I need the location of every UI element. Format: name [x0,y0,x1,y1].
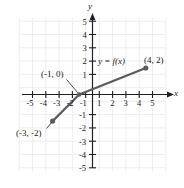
x-axis-label: x [174,89,178,98]
endpoint-marker-right [143,65,148,70]
y-tick-5: 5 [83,18,87,27]
x-tick--3: -3 [53,99,60,108]
point-label-right-endpoint: (4, 2) [144,56,164,65]
y-tick-3: 3 [83,44,87,53]
y-axis-label: y [88,2,92,11]
y-tick--4: -4 [79,151,86,160]
x-tick-4: 4 [137,99,141,108]
x-tick-3: 3 [124,99,128,108]
x-tick-2: 2 [110,99,114,108]
graph-figure: y x -5 -4 -3 -2 -1 1 2 3 4 5 5 4 3 2 1 -… [0,0,184,188]
x-tick--2: -2 [66,99,73,108]
x-tick--4: -4 [40,99,47,108]
x-tick--1: -1 [80,99,87,108]
y-tick--1: -1 [79,111,86,120]
y-tick--2: -2 [79,124,86,133]
y-tick-4: 4 [83,31,87,40]
coordinate-plane [0,0,184,188]
point-label-vertex: (-1, 0) [41,70,64,79]
x-tick-5: 5 [150,99,154,108]
x-tick-1: 1 [97,99,101,108]
x-axis [22,91,174,98]
y-tick-2: 2 [83,57,87,66]
x-tick--5: -5 [27,99,34,108]
y-tick--5: -5 [79,164,86,173]
y-tick-1: 1 [83,71,87,80]
point-label-left-endpoint: (-3, -2) [16,129,42,138]
function-equation-label: y = f(x) [98,57,125,66]
y-tick--3: -3 [79,138,86,147]
